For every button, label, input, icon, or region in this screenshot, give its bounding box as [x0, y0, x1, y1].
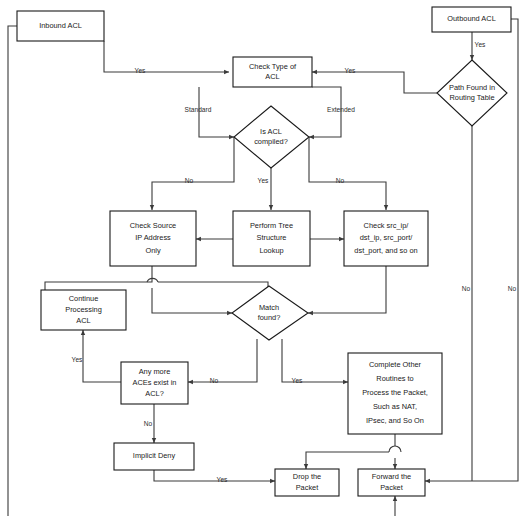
- node-complete-line5: IPsec, and So On: [366, 416, 424, 425]
- acl-flowchart-svg: Inbound ACL Outbound ACL Check Type of A…: [0, 0, 524, 516]
- node-complete-line1: Complete Other: [369, 360, 422, 369]
- node-is-acl-compiled[interactable]: Is ACL compiled?: [234, 106, 309, 168]
- node-perform-tree-line3: Lookup: [259, 246, 283, 255]
- edge-checksource-loop-down: [152, 288, 232, 313]
- node-forward-packet-line2: Packet: [380, 483, 403, 492]
- node-drop-packet-line2: Packet: [296, 483, 319, 492]
- node-check-source-line1: Check Source: [130, 221, 176, 230]
- node-complete-other-routines[interactable]: Complete Other Routines to Process the P…: [348, 353, 442, 434]
- edge-label-standard: Standard: [185, 106, 212, 113]
- node-check-srcip-line2: dst_ip, src_port/: [360, 233, 414, 242]
- edge-label-inbound-yes: Yes: [135, 67, 146, 74]
- edge-pathfound-to-checktype: [312, 72, 437, 93]
- edge-checksrcip-to-match: [308, 266, 386, 313]
- edge-complete-hop-arc: [389, 446, 401, 452]
- node-drop-packet-line1: Drop the: [293, 472, 321, 481]
- edge-deny-to-drop: [154, 470, 275, 481]
- node-complete-line2: Routines to: [376, 374, 413, 383]
- flowchart-canvas: Inbound ACL Outbound ACL Check Type of A…: [0, 0, 524, 516]
- edge-match-no: [188, 339, 257, 382]
- edge-label-aces-yes: Yes: [72, 356, 83, 363]
- node-continue-processing-acl[interactable]: Continue Processing ACL: [41, 290, 126, 330]
- node-continue-line1: Continue: [69, 294, 99, 303]
- node-perform-tree-line2: Structure: [257, 233, 287, 242]
- node-outbound-acl[interactable]: Outbound ACL: [432, 7, 511, 32]
- edge-label-pathfound-yes: Yes: [345, 67, 356, 74]
- node-check-source-ip-address-only[interactable]: Check Source IP Address Only: [110, 211, 196, 266]
- node-check-source-line2: IP Address: [135, 233, 171, 242]
- node-check-srcip-line3: dst_port, and so on: [354, 246, 417, 255]
- node-inbound-acl-label: Inbound ACL: [39, 21, 82, 30]
- edge-label-match-yes: Yes: [292, 377, 303, 384]
- edge-compiled-no-right: [309, 137, 386, 210]
- node-continue-line3: ACL: [76, 316, 90, 325]
- edge-label-compiled-no-left: No: [185, 177, 194, 184]
- edge-label-compiled-yes: Yes: [258, 177, 269, 184]
- edge-label-extended: Extended: [327, 106, 355, 113]
- edge-label-outbound-yes: Yes: [475, 41, 486, 48]
- node-match-found[interactable]: Match found?: [232, 286, 308, 340]
- node-check-src-dst-ports[interactable]: Check src_ip/ dst_ip, src_port/ dst_port…: [344, 211, 428, 266]
- node-match-found-line2: found?: [258, 313, 281, 322]
- node-continue-line2: Processing: [65, 305, 102, 314]
- edge-aces-yes: [83, 330, 121, 382]
- node-path-found-line1: Path Found in: [449, 83, 495, 92]
- node-perform-tree-line1: Perform Tree: [250, 221, 293, 230]
- edge-label-pathfound-no: No: [462, 285, 471, 292]
- node-is-compiled-line2: compiled?: [254, 137, 288, 146]
- edge-match-yes: [282, 339, 348, 382]
- node-implicit-deny-label: Implicit Deny: [133, 451, 176, 460]
- edge-label-match-no: No: [210, 377, 219, 384]
- node-complete-line3: Process the Packet,: [362, 388, 428, 397]
- edge-label-aces-no: No: [144, 420, 153, 427]
- node-drop-the-packet[interactable]: Drop the Packet: [275, 469, 339, 496]
- node-check-type-line1: Check Type of: [249, 62, 297, 71]
- node-match-found-line1: Match: [259, 303, 279, 312]
- edge-label-deny-yes: Yes: [217, 476, 228, 483]
- node-forward-the-packet[interactable]: Forward the Packet: [358, 469, 425, 496]
- node-check-type-line2: ACL: [265, 72, 279, 81]
- node-outbound-acl-label: Outbound ACL: [447, 14, 496, 23]
- edge-label-right-margin-no: No: [508, 285, 517, 292]
- node-is-compiled-line1: Is ACL: [260, 127, 282, 136]
- edge-compiled-no-left: [152, 137, 234, 210]
- node-any-more-aces-line2: ACEs exist in: [133, 378, 177, 387]
- node-implicit-deny[interactable]: Implicit Deny: [114, 443, 194, 470]
- node-any-more-aces-line3: ACL?: [145, 389, 164, 398]
- node-complete-line4: Such as NAT,: [373, 402, 417, 411]
- edge-inbound-left-margin: [8, 26, 68, 516]
- node-any-more-aces[interactable]: Any more ACEs exist in ACL?: [121, 362, 188, 404]
- node-perform-tree-structure-lookup[interactable]: Perform Tree Structure Lookup: [233, 211, 310, 266]
- node-check-source-line3: Only: [145, 246, 161, 255]
- node-path-found-line2: Routing Table: [449, 93, 494, 102]
- node-any-more-aces-line1: Any more: [139, 367, 171, 376]
- node-check-srcip-line1: Check src_ip/: [364, 221, 410, 230]
- node-check-type-of-acl[interactable]: Check Type of ACL: [233, 57, 312, 87]
- edge-inbound-to-checktype: [104, 41, 229, 72]
- node-path-found-in-routing-table[interactable]: Path Found in Routing Table: [437, 60, 507, 126]
- node-forward-packet-line1: Forward the: [372, 472, 411, 481]
- node-inbound-acl[interactable]: Inbound ACL: [17, 11, 104, 41]
- edge-complete-to-drop: [306, 452, 389, 469]
- edge-label-compiled-no-right: No: [336, 177, 345, 184]
